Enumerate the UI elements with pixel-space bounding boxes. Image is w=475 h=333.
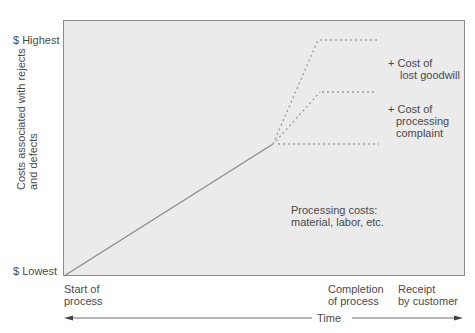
processing-cost-line — [64, 144, 273, 276]
annotation-processing-complaint: + Cost of processing complaint — [388, 103, 449, 139]
annotation-lost-goodwill: + Cost of lost goodwill — [388, 57, 460, 81]
y-axis-label-line1: Costs associated with rejects — [15, 40, 27, 190]
x-tick-completion: Completion of process — [328, 283, 384, 307]
y-axis-label-line2: and defects — [27, 40, 39, 190]
x-tick-start: Start of process — [64, 283, 103, 307]
annotation-processing-costs: Processing costs: material, labor, etc. — [291, 204, 384, 228]
complaint-rise-line — [276, 92, 320, 141]
x-tick-receipt: Receipt by customer — [398, 283, 458, 307]
x-axis-label: Time — [317, 312, 341, 324]
y-tick-lowest: $ Lowest — [13, 265, 57, 277]
arrow-left-icon — [64, 316, 73, 321]
arrow-right-icon — [454, 316, 463, 321]
goodwill-rise-line — [273, 40, 318, 144]
y-axis-label: Costs associated with rejects and defect… — [15, 40, 39, 190]
